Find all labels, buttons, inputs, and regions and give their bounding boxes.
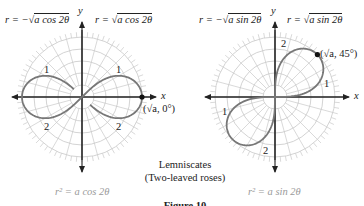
left-loop-label-1a: 1 (44, 64, 49, 76)
right-point-label: (√a, 45°) (320, 48, 357, 60)
left-label-positive: r = √a cos 2θ (95, 14, 152, 26)
left-equation: r² = a cos 2θ (55, 186, 109, 198)
right-loop-label-1b: 1 (222, 106, 227, 118)
right-equation: r² = a sin 2θ (248, 186, 301, 198)
left-loop-label-2b: 2 (116, 121, 121, 133)
right-x-axis-label: x (354, 90, 359, 102)
left-point-label: (√a, 0°) (143, 103, 175, 115)
figure-caption: Lemniscates (Two-leaved roses) (132, 158, 238, 184)
right-loop-label-2b: 2 (263, 145, 268, 157)
right-y-axis-label: y (271, 5, 276, 17)
right-loop-label-1a: 1 (324, 78, 329, 90)
left-loop-label-2a: 2 (44, 121, 49, 133)
caption-line-1: Lemniscates (132, 158, 238, 171)
caption-line-2: (Two-leaved roses) (132, 171, 238, 184)
right-label-negative: r = −√a sin 2θ (199, 14, 261, 26)
right-label-positive: r = √a sin 2θ (287, 14, 342, 26)
left-label-negative: r = −√a cos 2θ (5, 14, 69, 26)
right-loop-label-2a: 2 (281, 38, 286, 50)
left-x-axis-label: x (161, 90, 166, 102)
left-point-marker (139, 94, 144, 99)
left-loop-label-1b: 1 (116, 64, 121, 76)
figure-label: Figure 10 (150, 199, 220, 206)
left-y-axis-label: y (78, 5, 83, 17)
